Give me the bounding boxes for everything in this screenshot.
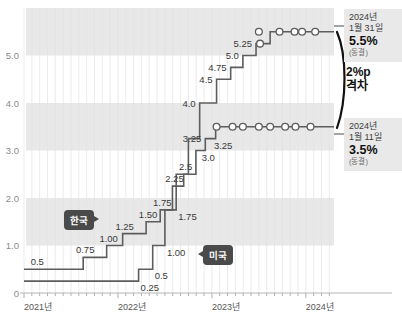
x-axis-labels: 2021년2022년2023년2024년 — [24, 302, 334, 312]
korea-callout-value: 3.5% — [349, 143, 397, 158]
y-tick-label: 0 — [14, 288, 19, 299]
usa-callout-note: (동결) — [349, 49, 397, 58]
data-marker — [292, 123, 299, 130]
x-tick-label: 2021년 — [24, 302, 52, 312]
data-label: 1.75 — [178, 211, 197, 222]
usa-callout-value: 5.5% — [349, 34, 397, 49]
axis-tickmarks — [24, 293, 329, 298]
y-tick-label: 1.0 — [6, 240, 19, 251]
data-label: 0.5 — [155, 270, 168, 281]
data-marker — [282, 123, 289, 130]
gap-label: 격차 — [346, 80, 371, 94]
data-label: 0.5 — [31, 256, 44, 267]
korea-callout-note: (동결) — [349, 158, 397, 167]
y-axis-labels: 5.04.03.02.01.00 — [6, 50, 19, 299]
data-label: 3.0 — [202, 152, 215, 163]
data-marker — [239, 123, 246, 130]
data-label: 1.00 — [99, 233, 118, 244]
korea-rate-callout: 2024년 1월 11일 3.5% (동결) — [344, 118, 402, 171]
data-label: 2.5 — [179, 161, 192, 172]
data-label: 5.0 — [226, 50, 239, 61]
data-marker — [299, 28, 306, 35]
data-marker — [291, 28, 298, 35]
y-tick-label: 2.0 — [6, 193, 19, 204]
x-tick-label: 2024년 — [306, 302, 334, 312]
usa-rate-callout: 2024년 1월 31일 5.5% (동결) — [344, 9, 402, 62]
x-tick-label: 2022년 — [118, 302, 146, 312]
y-tick-label: 3.0 — [6, 145, 19, 156]
data-label: 4.0 — [182, 98, 195, 109]
legend-label-korea: 한국 — [70, 215, 88, 226]
korea-callout-date: 1월 11일 — [349, 132, 397, 143]
pill-tail-icon — [94, 216, 99, 222]
data-label: 0.75 — [76, 244, 95, 255]
data-marker — [255, 28, 262, 35]
data-label: 4.75 — [208, 62, 227, 73]
gap-annotation: 2%p 격차 — [346, 66, 371, 94]
data-marker — [312, 28, 319, 35]
data-label: 3.25 — [214, 140, 233, 151]
data-label: 1.75 — [153, 197, 172, 208]
y-tick-label: 5.0 — [6, 50, 19, 61]
data-marker — [255, 123, 262, 130]
gap-value: 2%p — [346, 66, 371, 80]
data-label: 1.00 — [167, 247, 186, 258]
pill-tail-icon — [198, 251, 203, 257]
usa-callout-date: 1월 31일 — [349, 23, 397, 34]
data-label: 4.5 — [199, 74, 212, 85]
data-label: 5.25 — [234, 38, 253, 49]
korea-callout-year: 2024년 — [349, 121, 397, 132]
data-label: 3.25 — [183, 133, 202, 144]
data-marker — [307, 123, 314, 130]
data-label: 1.25 — [115, 221, 134, 232]
data-label: 1.50 — [139, 209, 158, 220]
data-marker — [229, 123, 236, 130]
data-label: 0.25 — [141, 282, 160, 293]
x-tick-label: 2023년 — [212, 302, 240, 312]
data-marker — [257, 40, 264, 47]
y-tick-label: 4.0 — [6, 98, 19, 109]
usa-callout-year: 2024년 — [349, 12, 397, 23]
legend-pill-usa: 미국 — [203, 245, 233, 265]
data-marker — [276, 28, 283, 35]
data-marker — [267, 123, 274, 130]
legend-label-usa: 미국 — [209, 250, 227, 261]
data-marker — [213, 123, 220, 130]
legend-pill-korea: 한국 — [64, 210, 94, 230]
data-label: 2.25 — [165, 173, 184, 184]
